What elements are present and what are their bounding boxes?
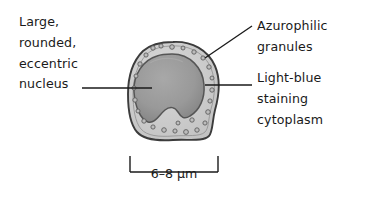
- granule: [210, 76, 214, 80]
- granule: [159, 44, 163, 48]
- label-nucleus: Large, rounded, eccentric nucleus: [19, 12, 78, 95]
- granule: [207, 65, 211, 69]
- granule: [201, 56, 205, 60]
- granule: [192, 50, 196, 54]
- scale-bar-caption: 6–8 µm: [128, 166, 220, 181]
- granule: [144, 53, 148, 57]
- label-cytoplasm: Light-blue staining cytoplasm: [257, 68, 323, 130]
- granule: [173, 129, 177, 133]
- granule: [184, 130, 189, 135]
- granule: [206, 110, 211, 115]
- label-azurophilic-granules: Azurophilic granules: [257, 16, 328, 58]
- granule: [151, 125, 155, 129]
- lymphocyte-diagram: Large, rounded, eccentric nucleus Azurop…: [0, 0, 372, 218]
- granule: [138, 62, 142, 66]
- granule: [136, 109, 140, 113]
- granule: [162, 128, 167, 133]
- granule: [195, 128, 199, 132]
- leader-line-granules: [205, 26, 252, 58]
- granule: [210, 88, 214, 92]
- granule: [176, 121, 180, 125]
- granule: [134, 74, 138, 78]
- granule: [181, 46, 185, 50]
- granule: [208, 99, 212, 103]
- granule: [190, 118, 194, 122]
- granule: [133, 98, 137, 102]
- granule: [203, 121, 207, 125]
- granule: [142, 119, 146, 123]
- granule: [170, 45, 175, 50]
- granule: [151, 46, 155, 50]
